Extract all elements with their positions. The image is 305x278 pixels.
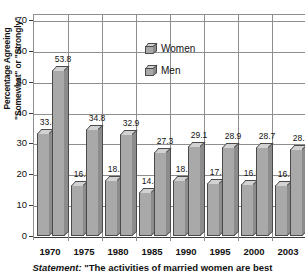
bar-men-1990 [188, 146, 201, 236]
bar-women-2003 [275, 185, 288, 236]
bar-group: 16.634.8 [68, 14, 102, 240]
y-tick-label: 20 [3, 168, 27, 179]
bar-women-1995 [207, 183, 220, 236]
bar-men-2003 [290, 149, 303, 236]
caption-text: "The activities of married women are bes… [84, 262, 272, 273]
bar-group: 16.828.7 [238, 14, 272, 240]
bar-women-1990 [173, 180, 186, 236]
bar-men-1985 [154, 152, 167, 236]
bar-men-1970 [52, 70, 65, 236]
legend-label-women: Women [161, 43, 195, 54]
caption-prefix: Statement: [33, 262, 82, 273]
bar-women-1970 [37, 133, 50, 236]
chart-caption: Statement: "The activities of married wo… [0, 262, 305, 273]
bar-women-2000 [241, 184, 254, 236]
y-tick-mark [29, 174, 33, 175]
bar-women-1975 [71, 185, 84, 236]
y-tick-label: 10 [3, 199, 27, 210]
y-tick-mark [29, 143, 33, 144]
y-tick-mark [29, 236, 33, 237]
bar-side-face [302, 145, 305, 236]
bar-men-2000 [256, 147, 269, 236]
legend-swatch-men-icon [145, 65, 157, 76]
bar-men-1980 [120, 134, 133, 236]
y-tick-label: 30 [3, 137, 27, 148]
legend-item-men: Men [145, 65, 180, 76]
bar-value-label: 28.1 [286, 133, 305, 143]
y-tick-mark [29, 113, 33, 114]
y-tick-label: 0 [3, 230, 27, 241]
bar-women-1985 [139, 192, 152, 236]
legend-label-men: Men [161, 65, 180, 76]
bar-group: 16.528.1 [272, 14, 305, 240]
bar-men-1995 [222, 147, 235, 236]
bar-group: 17.328.9 [204, 14, 238, 240]
y-tick-mark [29, 20, 33, 21]
y-tick-label: 50 [3, 76, 27, 87]
y-tick-label: 40 [3, 107, 27, 118]
y-tick-mark [29, 205, 33, 206]
chart-container: Percentage Agreeing "Somewhat" or "Stron… [0, 0, 305, 278]
bar-group: 18.232.9 [102, 14, 136, 240]
y-tick-mark [29, 82, 33, 83]
plot-area: 33.353.816.634.818.232.914.427.318.129.1… [33, 14, 305, 240]
bar-group: 33.353.8 [34, 14, 68, 240]
y-tick-label: 70 [3, 14, 27, 25]
legend-item-women: Women [145, 43, 195, 54]
x-tick-label: 2003 [266, 246, 305, 257]
bar-women-1980 [105, 180, 118, 236]
legend-swatch-women-icon [145, 43, 157, 54]
bar-men-1975 [86, 129, 99, 236]
y-tick-mark [29, 51, 33, 52]
y-tick-label: 60 [3, 45, 27, 56]
